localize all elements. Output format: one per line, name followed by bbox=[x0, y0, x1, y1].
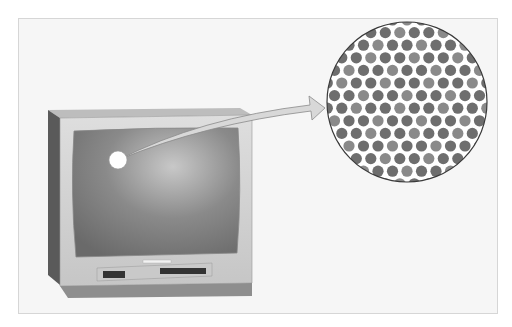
tv-illustration bbox=[0, 0, 512, 327]
crt-television bbox=[48, 108, 252, 298]
phosphor-dot-pattern bbox=[314, 14, 499, 189]
screen-spot bbox=[109, 151, 127, 169]
